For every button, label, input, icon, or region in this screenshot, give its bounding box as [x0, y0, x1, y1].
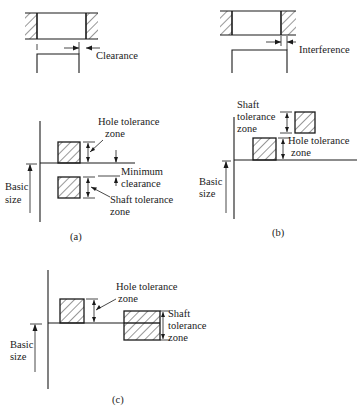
basic-size-label: Basic — [5, 181, 29, 192]
basic-size-arrow — [222, 161, 231, 213]
panel-a-tolerance-zones: Basic size Hole tolerance zone Minimum c… — [5, 116, 174, 243]
minimum-clearance-label-2: clearance — [121, 178, 161, 189]
hole-tolerance-label: Hole tolerance — [116, 281, 178, 292]
hole-tolerance-label-2: zone — [291, 147, 311, 158]
shaft-tolerance-label: Shaft tolerance — [110, 194, 174, 205]
hole-tolerance-zone — [60, 299, 84, 323]
shaft-tolerance-zone — [295, 112, 315, 133]
caption-a: (a) — [70, 231, 82, 243]
caption-c: (c) — [112, 394, 124, 406]
panel-b-interference-sketch: Interference — [220, 11, 350, 73]
shaft-part — [232, 50, 287, 73]
minimum-clearance-dimension — [98, 150, 120, 186]
basic-size-label-2: size — [10, 351, 27, 362]
hole-tolerance-label: Hole tolerance — [288, 135, 350, 146]
basic-size-label: Basic — [199, 176, 223, 187]
caption-b: (b) — [272, 227, 285, 239]
hole-tolerance-zone — [58, 142, 80, 163]
hole-zone-dimension — [86, 299, 116, 322]
hole-tolerance-label-2: zone — [105, 128, 125, 139]
shaft-tolerance-label: Shaft — [168, 308, 190, 319]
interference-dimension-arrows — [266, 36, 296, 50]
basic-size-label-2: size — [199, 188, 216, 199]
fits-tolerance-diagram: Clearance Interference — [0, 0, 360, 408]
hole-part — [220, 11, 296, 35]
hole-tolerance-label: Hole tolerance — [98, 116, 160, 127]
hole-part — [25, 13, 98, 39]
hole-zone-dimension — [83, 140, 103, 162]
minimum-clearance-label: Minimum — [121, 166, 163, 177]
clearance-dimension-arrows — [64, 42, 100, 54]
hole-tolerance-zone — [253, 138, 276, 160]
basic-size-label: Basic — [10, 339, 34, 350]
basic-size-label-2: size — [5, 194, 22, 205]
shaft-tolerance-label-3: zone — [168, 332, 188, 343]
shaft-tolerance-label-2: zone — [110, 206, 130, 217]
shaft-tolerance-label: Shaft — [237, 99, 259, 110]
shaft-tolerance-zone — [58, 177, 80, 198]
panel-c-tolerance-zones: Basic size Hole tolerance zone Shaft tol… — [10, 270, 207, 406]
panel-a-clearance-sketch: Clearance — [25, 13, 138, 73]
shaft-tolerance-label-3: zone — [237, 123, 257, 134]
shaft-zone-dimension — [280, 112, 292, 133]
shaft-tolerance-label-2: tolerance — [168, 320, 207, 331]
interference-label: Interference — [299, 44, 350, 55]
shaft-zone-dimension — [83, 177, 110, 198]
hole-tolerance-label-2: zone — [118, 293, 138, 304]
shaft-tolerance-zone — [124, 311, 160, 340]
clearance-label: Clearance — [96, 50, 138, 61]
shaft-tolerance-label-2: tolerance — [237, 111, 276, 122]
panel-b-tolerance-zones: Basic size Hole tolerance zone Shaft tol… — [199, 99, 357, 239]
